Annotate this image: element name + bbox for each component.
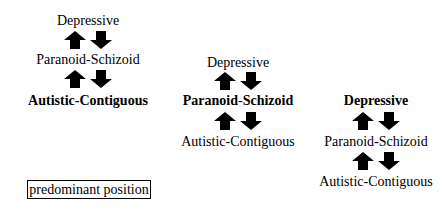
level-paranoid-schizoid: Paranoid-Schizoid — [296, 134, 445, 150]
level-depressive: Depressive — [158, 55, 318, 71]
arrow-down-icon — [240, 72, 262, 90]
level-autistic-contiguous-predominant: Autistic-Contiguous — [8, 93, 168, 109]
transition-arrows — [296, 112, 445, 130]
arrow-down-icon — [240, 112, 262, 130]
arrow-down-icon — [378, 152, 400, 170]
transition-arrows — [158, 112, 318, 130]
level-paranoid-schizoid: Paranoid-Schizoid — [8, 52, 168, 68]
arrow-up-icon — [214, 72, 236, 90]
transition-arrows — [8, 31, 168, 49]
arrow-up-icon — [352, 112, 374, 130]
level-autistic-contiguous: Autistic-Contiguous — [296, 174, 445, 190]
arrow-down-icon — [378, 112, 400, 130]
arrow-up-icon — [64, 70, 86, 88]
arrow-up-icon — [214, 112, 236, 130]
transition-arrows — [8, 70, 168, 88]
arrow-up-icon — [64, 31, 86, 49]
arrow-down-icon — [90, 31, 112, 49]
level-autistic-contiguous: Autistic-Contiguous — [158, 134, 318, 150]
legend-predominant-position: predominant position — [27, 180, 151, 199]
transition-arrows — [296, 152, 445, 170]
transition-arrows — [158, 72, 318, 90]
level-depressive-predominant: Depressive — [296, 93, 445, 109]
arrow-down-icon — [90, 70, 112, 88]
level-depressive: Depressive — [8, 13, 168, 29]
arrow-up-icon — [352, 152, 374, 170]
level-paranoid-schizoid-predominant: Paranoid-Schizoid — [158, 93, 318, 109]
